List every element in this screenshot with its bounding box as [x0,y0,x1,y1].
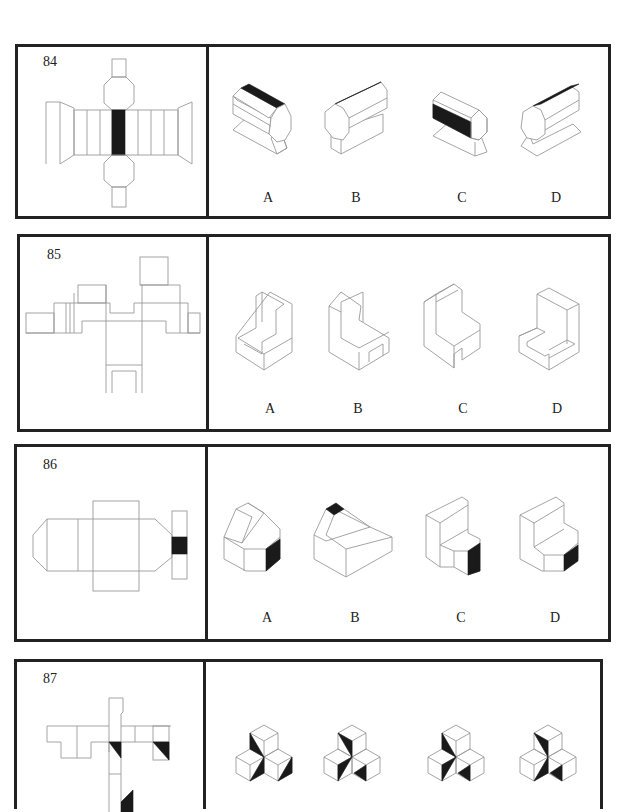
option-label-86-c[interactable]: C [456,610,465,626]
option-figure-87-b[interactable] [324,719,380,779]
option-figure-84-a[interactable] [229,82,299,162]
options-panel-85: A B C D [209,237,608,429]
option-label-86-d[interactable]: D [550,610,560,626]
option-figure-84-b[interactable] [321,82,391,162]
option-label-84-c[interactable]: C [457,190,466,206]
option-label-84-d[interactable]: D [551,190,561,206]
question-87: 87 [14,659,603,809]
option-figure-87-d[interactable] [520,719,576,779]
option-figure-85-a[interactable] [234,282,304,377]
option-figure-84-c[interactable] [429,82,499,162]
net-panel-86: 86 [17,447,208,639]
option-label-86-a[interactable]: A [262,610,272,626]
option-label-86-b[interactable]: B [350,610,359,626]
option-figure-85-d[interactable] [517,282,587,377]
option-figure-85-c[interactable] [422,282,492,377]
question-84: 84 [15,44,611,219]
options-panel-84: A B C D [209,47,608,216]
option-figure-86-c[interactable] [424,495,504,575]
option-label-85-c[interactable]: C [458,401,467,417]
option-label-85-b[interactable]: B [353,401,362,417]
net-diagram-85 [20,237,206,427]
option-figure-86-a[interactable] [222,495,302,575]
net-panel-84: 84 [18,47,209,216]
net-panel-85: 85 [20,237,209,429]
option-figure-84-d[interactable] [517,82,587,162]
net-diagram-86 [17,447,205,637]
net-panel-87: 87 [17,662,206,809]
option-figure-86-d[interactable] [518,495,598,575]
question-85: 85 [17,234,611,432]
option-label-84-b[interactable]: B [351,190,360,206]
options-panel-86: A B C D [208,447,608,639]
question-86: 86 [14,444,611,642]
net-diagram-87 [17,662,203,812]
option-label-85-d[interactable]: D [552,401,562,417]
option-figure-87-a[interactable] [236,719,292,779]
option-figure-85-b[interactable] [327,282,397,377]
option-label-84-a[interactable]: A [263,190,273,206]
net-diagram-84 [18,47,206,217]
option-figure-86-b[interactable] [312,495,392,575]
option-label-85-a[interactable]: A [265,401,275,417]
option-figure-87-c[interactable] [428,719,484,779]
options-panel-87 [206,662,600,809]
